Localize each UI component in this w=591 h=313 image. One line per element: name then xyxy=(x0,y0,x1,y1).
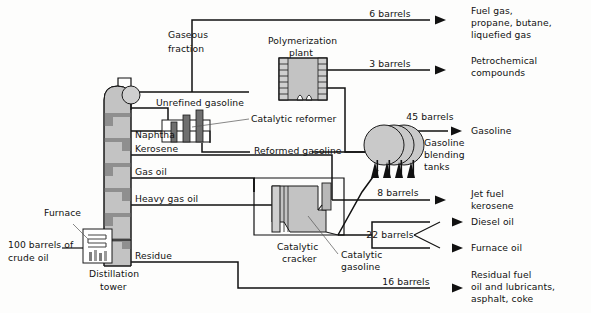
label-blending-tanks-line1: Gasoline xyxy=(424,137,465,148)
tray-riser xyxy=(122,189,131,201)
product-petrochemical-line2: compounds xyxy=(471,67,525,78)
label-gaseous-fraction-line2: fraction xyxy=(168,43,204,54)
label-reformed-gasoline: Reformed gasoline xyxy=(254,145,342,156)
label-catalytic-gasoline-line2: gasoline xyxy=(341,261,380,272)
arrow-fuel-gas xyxy=(435,16,446,25)
reformer-column xyxy=(183,115,190,142)
flame xyxy=(104,251,107,261)
cracker-riser xyxy=(322,183,331,210)
product-residual-line3: asphalt, coke xyxy=(471,293,534,304)
label-unrefined-gasoline: Unrefined gasoline xyxy=(156,97,244,108)
label-polymerization-plant-line1: Polymerization xyxy=(268,35,337,46)
product-furnace-oil: Furnace oil xyxy=(471,242,522,253)
flow-reformer-out xyxy=(202,143,250,152)
label-crude-input-line1: 100 barrels of xyxy=(8,239,74,250)
polymerization-plant xyxy=(279,58,327,100)
qty-residual-fuel: 16 barrels xyxy=(382,276,429,287)
flow-split-down xyxy=(414,235,440,248)
gasoline-blending-tanks xyxy=(364,125,424,178)
label-polymerization-plant-line2: plant xyxy=(289,47,313,58)
arrow-furnace-oil xyxy=(452,244,463,253)
label-distillation-tower-line2: tower xyxy=(100,281,127,292)
flame xyxy=(99,253,102,261)
label-heavy-gas-oil: Heavy gas oil xyxy=(135,193,198,204)
label-catalytic-reformer: Catalytic reformer xyxy=(251,113,336,124)
label-gas-oil: Gas oil xyxy=(135,166,167,177)
label-gaseous-fraction-line1: Gaseous xyxy=(168,29,208,40)
product-fuel-gas-line3: liquefied gas xyxy=(471,29,531,40)
qty-fuel-gas: 6 barrels xyxy=(369,8,410,19)
flow-split-up xyxy=(414,222,440,235)
flow-gas-oil xyxy=(131,178,254,192)
tray-riser xyxy=(104,114,113,126)
product-jet-fuel-line1: Jet fuel xyxy=(470,188,504,199)
product-gasoline: Gasoline xyxy=(471,125,512,136)
product-fuel-gas-line1: Fuel gas, xyxy=(471,5,513,16)
product-residual-line1: Residual fuel xyxy=(471,269,531,280)
label-blending-tanks-line2: blending xyxy=(424,149,465,160)
qty-petrochemical: 3 barrels xyxy=(369,58,410,69)
tray-riser xyxy=(104,164,113,176)
blending-sphere xyxy=(364,125,404,165)
label-catalytic-cracker-line1: Catalytic xyxy=(277,241,318,252)
flow-unrefined-gasoline xyxy=(131,108,168,120)
label-kerosene: Kerosene xyxy=(135,143,178,154)
arrow-residual-fuel xyxy=(452,284,463,293)
qty-gasoline: 45 barrels xyxy=(406,111,453,122)
label-residue: Residue xyxy=(135,250,172,261)
label-distillation-tower-line1: Distillation xyxy=(89,268,139,279)
refinery-flow-diagram: Gaseous fraction Unrefined gasoline Naph… xyxy=(0,0,591,313)
product-diesel-oil: Diesel oil xyxy=(471,216,514,227)
tray-riser xyxy=(104,214,113,226)
arrow-petrochemical xyxy=(435,66,446,75)
label-catalytic-gasoline-line1: Catalytic xyxy=(341,249,382,260)
label-crude-input-line2: crude oil xyxy=(8,252,49,263)
arrow-gasoline xyxy=(451,127,462,136)
product-fuel-gas-line2: propane, butane, xyxy=(471,17,552,28)
product-petrochemical-line1: Petrochemical xyxy=(471,55,537,66)
label-blending-tanks-line3: tanks xyxy=(424,161,450,172)
arrow-jet-fuel xyxy=(435,196,446,205)
flame xyxy=(94,250,97,261)
label-catalytic-cracker-line2: cracker xyxy=(282,253,317,264)
label-furnace: Furnace xyxy=(44,207,81,218)
diagram-canvas: Gaseous fraction Unrefined gasoline Naph… xyxy=(0,0,591,313)
tray-riser xyxy=(122,139,131,151)
qty-diesel-furnace: 22 barrels xyxy=(366,229,413,240)
flame xyxy=(89,252,92,261)
arrow-diesel-oil xyxy=(452,218,463,227)
product-jet-fuel-line2: kerosene xyxy=(471,200,514,211)
catalytic-reformer xyxy=(162,110,249,143)
product-residual-line2: oil and lubricants, xyxy=(471,281,555,292)
label-naphtha: Naphtha xyxy=(135,129,175,140)
qty-jet-fuel: 8 barrels xyxy=(377,187,418,198)
